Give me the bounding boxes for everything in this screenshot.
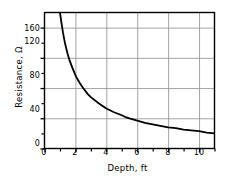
plot-area [0,0,225,181]
grid-lines [45,13,215,149]
data-series [59,5,214,133]
series-line [59,5,214,133]
plot-frame [45,13,215,149]
chart-figure: Resistance, Ω Depth, ft 0 40 80 120 160 … [0,0,225,181]
